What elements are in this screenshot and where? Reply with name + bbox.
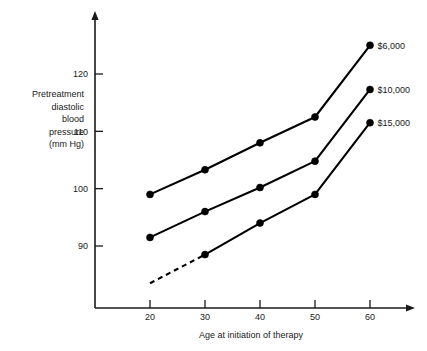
y-axis-arrow-icon [91, 11, 98, 20]
series-label: $10,000 [378, 85, 411, 95]
data-point-marker[interactable] [312, 114, 319, 121]
axes-group [91, 11, 415, 312]
data-point-marker[interactable] [202, 166, 209, 173]
data-point-marker[interactable] [312, 191, 319, 198]
series-label: $15,000 [378, 118, 411, 128]
x-axis-title: Age at initiation of therapy [199, 330, 304, 340]
y-tick-label: 90 [78, 241, 88, 251]
data-point-marker[interactable] [367, 86, 374, 93]
data-point-marker[interactable] [312, 158, 319, 165]
data-point-marker[interactable] [367, 119, 374, 126]
x-tick-label: 40 [255, 312, 265, 322]
series-dashed-segment [150, 255, 205, 284]
series-label: $6,000 [378, 41, 406, 51]
x-tick-label: 60 [365, 312, 375, 322]
x-axis-ticks: 2030405060 [145, 300, 375, 322]
data-point-marker[interactable] [202, 251, 209, 258]
x-tick-label: 50 [310, 312, 320, 322]
data-series-layer [147, 42, 374, 283]
data-point-marker[interactable] [147, 191, 154, 198]
data-point-marker[interactable] [257, 184, 264, 191]
data-point-marker[interactable] [202, 208, 209, 215]
y-tick-label: 100 [73, 184, 88, 194]
data-point-marker[interactable] [257, 139, 264, 146]
x-axis-arrow-icon [406, 304, 415, 311]
series-label-layer: $6,000$10,000$15,000 [378, 41, 411, 128]
data-point-marker[interactable] [147, 234, 154, 241]
x-tick-label: 20 [145, 312, 155, 322]
y-tick-label: 110 [74, 127, 88, 137]
data-point-marker[interactable] [367, 42, 374, 49]
series-line[interactable] [205, 123, 370, 255]
y-tick-label: 120 [73, 69, 88, 79]
chart-figure: Pretreatment diastolic blood pressure (m… [0, 0, 427, 351]
y-axis-ticks: 90100110120 [73, 69, 103, 251]
x-tick-label: 30 [200, 312, 210, 322]
series-line[interactable] [150, 89, 370, 237]
line-chart-plot: 90100110120 2030405060 $6,000$10,000$15,… [0, 0, 427, 351]
series-line[interactable] [150, 45, 370, 194]
data-point-marker[interactable] [257, 220, 264, 227]
